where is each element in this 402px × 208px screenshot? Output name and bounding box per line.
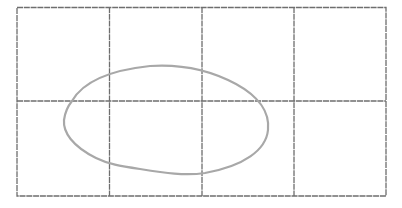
closed-loop bbox=[64, 66, 268, 175]
sketch-canvas bbox=[0, 0, 402, 208]
grid-sketch bbox=[0, 0, 402, 208]
